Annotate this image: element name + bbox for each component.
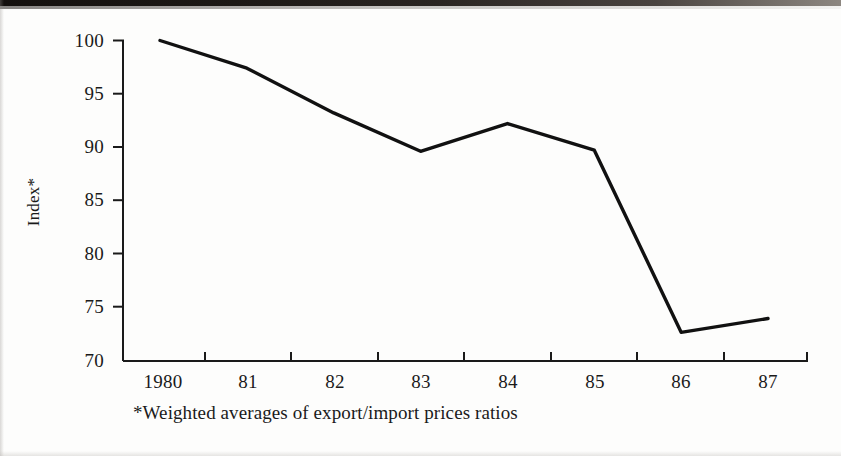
y-tick-label-90: 90 [58,137,104,156]
chart-axes [123,41,808,362]
x-tick-label-82: 82 [325,372,345,391]
y-tick-label-75: 75 [58,297,104,316]
figure-caption: *Weighted averages of export/import pric… [133,402,518,424]
x-tick-label-85: 85 [585,372,605,391]
y-tick-label-85: 85 [58,190,104,209]
y-axis-label-text: Index* [24,152,44,252]
x-tick-label-81: 81 [238,372,258,391]
line-chart: Index* 100 95 90 85 80 75 70 1980 81 82 … [0,0,841,456]
y-tick-label-100: 100 [58,31,104,50]
data-series-line [160,41,768,333]
figure-page: Index* 100 95 90 85 80 75 70 1980 81 82 … [0,0,841,456]
y-tick-label-80: 80 [58,244,104,263]
y-axis-label: Index* [14,150,54,270]
y-tick-label-95: 95 [58,84,104,103]
y-tick-label-70: 70 [58,351,104,370]
x-tick-label-84: 84 [498,372,518,391]
x-tick-label-86: 86 [671,372,691,391]
x-tick-label-87: 87 [758,372,778,391]
x-tick-label-1980: 1980 [143,372,182,391]
x-tick-label-83: 83 [411,372,431,391]
